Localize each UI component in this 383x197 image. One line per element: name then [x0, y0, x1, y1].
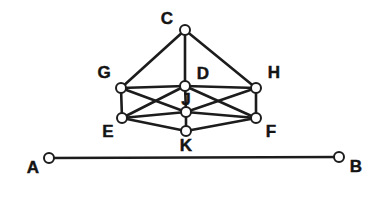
vertex-label-h: H: [268, 63, 280, 82]
edge-a-b: [49, 157, 339, 158]
vertex-node-h[interactable]: [251, 83, 261, 93]
vertex-node-g[interactable]: [116, 83, 126, 93]
vertex-label-j: J: [181, 90, 190, 109]
vertex-node-e[interactable]: [117, 113, 127, 123]
label-layer: CGDHJEFKAB: [27, 9, 362, 177]
vertex-label-b: B: [350, 157, 362, 176]
vertex-label-a: A: [27, 158, 39, 177]
vertex-label-c: C: [161, 9, 173, 28]
vertex-label-d: D: [197, 64, 209, 83]
vertex-node-b[interactable]: [334, 152, 344, 162]
vertex-label-f: F: [266, 122, 276, 141]
vertex-node-f[interactable]: [251, 113, 261, 123]
figure-svg: CGDHJEFKAB: [0, 0, 383, 197]
edge-layer: [49, 30, 339, 158]
vertex-node-k[interactable]: [181, 126, 191, 136]
vertex-label-e: E: [102, 122, 113, 141]
edge-e-k: [122, 118, 186, 131]
edge-f-k: [186, 118, 256, 131]
edge-c-g: [121, 30, 185, 88]
diagram-canvas: CGDHJEFKAB: [0, 0, 383, 197]
vertex-label-k: K: [180, 136, 193, 155]
vertex-node-a[interactable]: [44, 153, 54, 163]
vertex-label-g: G: [97, 63, 110, 82]
edge-c-h: [185, 30, 256, 88]
node-layer: [44, 25, 344, 163]
edge-d-h: [185, 86, 256, 88]
vertex-node-c[interactable]: [180, 25, 190, 35]
edge-g-d: [121, 86, 185, 88]
